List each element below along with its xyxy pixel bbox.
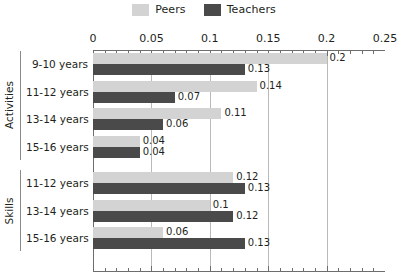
- x-tick-label: 0.15: [256, 33, 281, 45]
- group-label-text: Skills: [3, 197, 15, 224]
- bar-value-label: 0.2: [327, 52, 346, 64]
- group-label-activities: Activities: [0, 51, 18, 160]
- bar-peers: 0.04: [93, 136, 385, 147]
- category-label: 11-12 years: [26, 86, 88, 98]
- bar-segment: [93, 172, 233, 183]
- x-tick-label: 0: [90, 33, 97, 45]
- bar-value-label: 0.04: [140, 146, 165, 158]
- legend-entry-peers: Peers: [132, 4, 186, 16]
- bar-peers: 0.2: [93, 53, 385, 64]
- bar-segment: [93, 136, 140, 147]
- legend-swatch-icon: [204, 4, 221, 16]
- bar-teachers: 0.06: [93, 119, 385, 130]
- x-tick-label: 0.2: [318, 33, 336, 45]
- bar-peers: 0.06: [93, 227, 385, 238]
- bar-segment: [93, 238, 245, 249]
- bar-teachers: 0.04: [93, 147, 385, 158]
- bar-teachers: 0.13: [93, 183, 385, 194]
- bar-segment: [93, 53, 327, 64]
- bar-segment: [93, 119, 163, 130]
- bar-segment: [93, 92, 175, 103]
- bar-value-label: 0.07: [175, 91, 200, 103]
- category-axis-labels: 9-10 years11-12 years13-14 years15-16 ye…: [26, 50, 88, 272]
- category-label: 9-10 years: [26, 58, 88, 70]
- bar-teachers: 0.12: [93, 211, 385, 222]
- group-rule: [20, 51, 21, 160]
- category-label: 15-16 years: [26, 141, 88, 153]
- bar-chart: Peers Teachers 00.050.10.150.20.25 Activ…: [0, 0, 408, 280]
- bar-value-label: 0.14: [257, 80, 282, 92]
- bar-value-label: 0.06: [163, 226, 188, 238]
- bar-value-label: 0.13: [245, 237, 270, 249]
- group-rule: [20, 170, 21, 251]
- legend-entry-teachers: Teachers: [204, 4, 276, 16]
- bar-teachers: 0.13: [93, 238, 385, 249]
- bar-value-label: 0.13: [245, 182, 270, 194]
- x-tick-label: 0.25: [373, 33, 398, 45]
- bar-value-label: 0.06: [163, 118, 188, 130]
- bar-segment: [93, 227, 163, 238]
- bar-value-label: 0.1: [210, 199, 229, 211]
- x-tick-label: 0.05: [139, 33, 164, 45]
- bar-peers: 0.12: [93, 172, 385, 183]
- plot-area: 0.20.130.140.070.110.060.040.040.120.130…: [93, 50, 385, 272]
- bar-value-label: 0.13: [245, 63, 270, 75]
- category-label: 13-14 years: [26, 113, 88, 125]
- bar-peers: 0.11: [93, 108, 385, 119]
- bar-segment: [93, 183, 245, 194]
- bar-segment: [93, 211, 233, 222]
- x-axis-tick-labels: 00.050.10.150.20.25: [93, 33, 385, 47]
- group-label-text: Activities: [3, 81, 15, 129]
- bar-teachers: 0.13: [93, 64, 385, 75]
- bar-teachers: 0.07: [93, 92, 385, 103]
- bar-segment: [93, 64, 245, 75]
- category-label: 11-12 years: [26, 177, 88, 189]
- bar-value-label: 0.12: [233, 210, 258, 222]
- chart-legend: Peers Teachers: [0, 4, 408, 16]
- legend-label-teachers: Teachers: [227, 4, 276, 16]
- bar-segment: [93, 108, 221, 119]
- x-tick-label: 0.1: [201, 33, 219, 45]
- bar-segment: [93, 147, 140, 158]
- bar-segment: [93, 200, 210, 211]
- group-axis: ActivitiesSkills: [0, 50, 26, 272]
- category-label: 15-16 years: [26, 232, 88, 244]
- group-label-skills: Skills: [0, 170, 18, 251]
- legend-swatch-icon: [132, 4, 149, 16]
- category-label: 13-14 years: [26, 205, 88, 217]
- bar-peers: 0.14: [93, 81, 385, 92]
- legend-label-peers: Peers: [155, 4, 186, 16]
- bar-value-label: 0.11: [221, 107, 246, 119]
